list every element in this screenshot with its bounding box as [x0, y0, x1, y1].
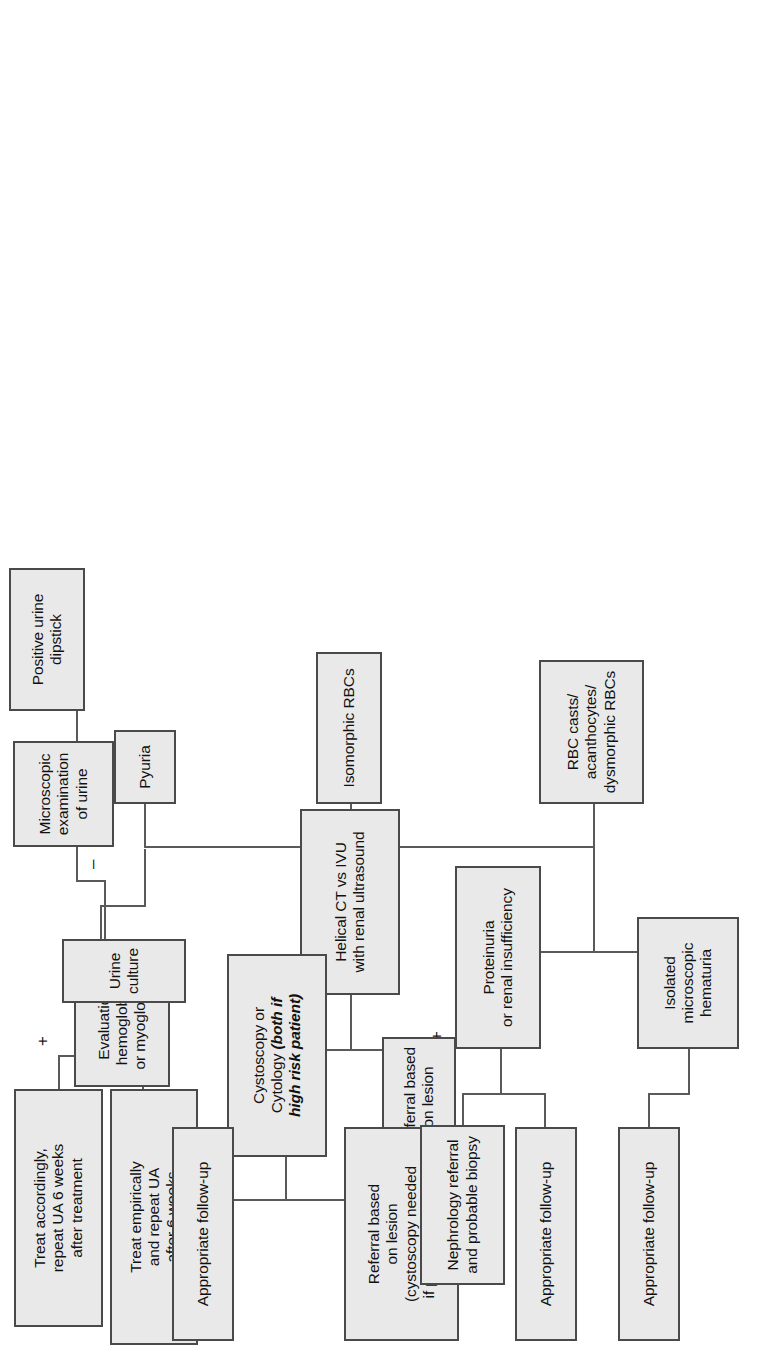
node-treat-accordingly[interactable]: Treat accordingly, repeat UA 6 weeks aft…	[14, 1089, 103, 1327]
node-pyuria-label: Pyuria	[136, 736, 154, 798]
connector-pyuria-riser	[100, 905, 146, 907]
node-positive-urine-dipstick-label: Positive urine dipstick	[29, 574, 65, 705]
node-rbc-casts-label: RBC casts/ acanthocytes/ dysmorphic RBCs	[564, 666, 618, 798]
connector-rbccasts-out	[593, 847, 595, 953]
edge-label-micro-negative: –	[84, 860, 101, 869]
connector-isolated-riser	[648, 1093, 690, 1095]
connector-spine-to-pyuria	[144, 804, 146, 848]
node-urine-culture[interactable]: Urine culture	[62, 939, 186, 1003]
node-microscopic-examination[interactable]: Microscopic examination of urine	[13, 741, 114, 847]
node-appropriate-followup-cysto[interactable]: Appropriate follow-up	[172, 1127, 234, 1341]
connector-isolated-to-followup	[648, 1093, 650, 1127]
node-appropriate-followup-isolated[interactable]: Appropriate follow-up	[618, 1127, 680, 1341]
connector-spine-to-rbccasts	[593, 804, 595, 848]
connector-micro-negative	[104, 880, 106, 939]
connector-isolated-out	[688, 1049, 690, 1095]
connector-micro-negative-stub	[76, 880, 106, 882]
node-microscopic-examination-label: Microscopic examination of urine	[36, 747, 90, 841]
connector-culture-positive	[58, 1055, 60, 1089]
node-isolated-microscopic-hematuria-label: Isolated microscopic hematuria	[661, 923, 715, 1043]
connector-proteinuria-to-followup	[544, 1093, 546, 1127]
connector-cysto-out	[285, 1157, 287, 1201]
flowchart-canvas: – + + – – + – + Positive urine dipstick …	[0, 0, 772, 1357]
node-isomorphic-rbcs-label: Isomorphic RBCs	[340, 658, 358, 798]
node-nephrology-referral-label: Nephrology referral and probable biopsy	[444, 1131, 480, 1279]
node-pyuria[interactable]: Pyuria	[114, 730, 176, 804]
node-proteinuria-label: Proteinuria or renal insufficiency	[480, 872, 516, 1043]
node-cystoscopy-cytology-line2: Cytology	[268, 1050, 285, 1114]
connector-micro-out	[76, 846, 78, 882]
connector-dipstick-to-micro	[76, 709, 78, 741]
node-appropriate-followup-cysto-label: Appropriate follow-up	[194, 1133, 212, 1335]
connector-ct-out	[350, 995, 352, 1051]
connector-pyuria-out	[144, 849, 146, 907]
node-urine-culture-label: Urine culture	[106, 945, 142, 997]
connector-proteinuria-out	[500, 1049, 502, 1095]
node-treat-accordingly-label: Treat accordingly, repeat UA 6 weeks aft…	[31, 1095, 85, 1321]
node-positive-urine-dipstick[interactable]: Positive urine dipstick	[9, 568, 85, 711]
edge-label-culture-positive: +	[34, 1036, 51, 1046]
connector-pyuria-to-culture	[100, 905, 102, 939]
connector-proteinuria-split	[462, 1093, 546, 1095]
node-appropriate-followup-proteinuria[interactable]: Appropriate follow-up	[515, 1127, 577, 1341]
rotated-figure-wrapper: – + + – – + – + Positive urine dipstick …	[0, 0, 772, 1357]
node-rbc-casts[interactable]: RBC casts/ acanthocytes/ dysmorphic RBCs	[539, 660, 644, 804]
node-cystoscopy-cytology[interactable]: Cystoscopy or Cytology (both if high ris…	[227, 954, 327, 1157]
node-proteinuria[interactable]: Proteinuria or renal insufficiency	[455, 866, 541, 1049]
node-appropriate-followup-isolated-label: Appropriate follow-up	[640, 1133, 658, 1335]
node-cystoscopy-cytology-line1: Cystoscopy or	[250, 962, 268, 1149]
node-helical-ct-label: Helical CT vs IVU with renal ultrasound	[332, 815, 368, 989]
node-isomorphic-rbcs[interactable]: Isomorphic RBCs	[316, 652, 382, 804]
node-appropriate-followup-proteinuria-label: Appropriate follow-up	[537, 1133, 555, 1335]
node-nephrology-referral[interactable]: Nephrology referral and probable biopsy	[420, 1125, 505, 1285]
connector-proteinuria-to-nephrology	[462, 1093, 464, 1127]
node-isolated-microscopic-hematuria[interactable]: Isolated microscopic hematuria	[637, 917, 739, 1049]
node-cystoscopy-cytology-label: Cystoscopy or Cytology (both if high ris…	[250, 962, 304, 1149]
